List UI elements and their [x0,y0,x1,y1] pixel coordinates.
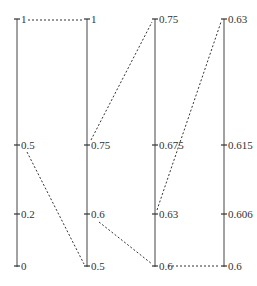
axis-3-tick-2: 0.63 [159,208,179,220]
link-2-3-top [91,22,152,140]
axis-2-tick-0: 1 [91,13,97,25]
axis-3-tick-3: 0.6 [159,260,173,272]
link-2-3-bottom [99,222,152,264]
axis-4-tick-0: 0.63 [228,13,248,25]
axis-4-tick-3: 0.6 [228,260,242,272]
axis-1-tick-0: 1 [21,13,27,25]
axis-2: 1 0.75 0.6 0.5 [84,13,111,272]
axis-3: 0.75 0.675 0.63 0.6 [152,13,184,272]
axis-1-tick-3: 0 [21,260,27,272]
axis-3-tick-0: 0.75 [159,13,179,25]
link-3-4-top [157,22,221,210]
axis-4: 0.63 0.615 0.606 0.6 [221,13,253,272]
axis-1-tick-1: 0.5 [21,139,35,151]
axis-2-tick-3: 0.5 [91,260,105,272]
link-1-2-bottom [27,152,84,264]
axis-2-tick-1: 0.75 [91,139,111,151]
axis-1: 1 0.5 0.2 0 [14,13,35,272]
axis-4-tick-1: 0.615 [228,139,253,151]
axis-2-tick-2: 0.6 [91,208,105,220]
links [27,20,221,266]
parallel-axes-chart: 1 0.5 0.2 0 1 0.75 0.6 0.5 0.75 0.675 0.… [0,0,257,286]
axis-4-tick-2: 0.606 [228,208,253,220]
axis-1-tick-2: 0.2 [21,208,35,220]
